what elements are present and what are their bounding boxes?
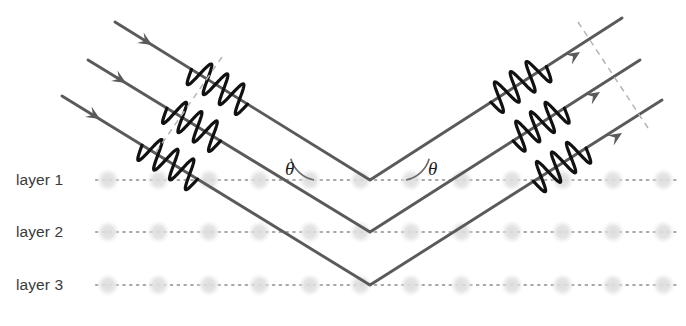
- atom-node: [148, 221, 170, 243]
- wavefronts-group: [156, 22, 648, 152]
- atom-node: [299, 221, 321, 243]
- ray-2-outgoing-arrowhead: [585, 92, 600, 105]
- bragg-diffraction-diagram: [0, 0, 686, 326]
- atom-node: [198, 221, 220, 243]
- atom-node: [400, 169, 422, 191]
- layer-label-2: layer 2: [16, 223, 63, 241]
- rays-group: [62, 18, 662, 285]
- diagram-canvas: layer 1 layer 2 layer 3 θ θ: [0, 0, 686, 326]
- atom-node: [501, 274, 523, 296]
- atom-node: [653, 169, 675, 191]
- atom-node: [501, 169, 523, 191]
- atom-node: [602, 274, 624, 296]
- layer-lines-group: [96, 180, 680, 285]
- atom-node: [249, 169, 271, 191]
- atom-node: [451, 274, 473, 296]
- atom-node: [602, 169, 624, 191]
- atom-node: [602, 221, 624, 243]
- atom-node: [552, 274, 574, 296]
- atom-node: [400, 221, 422, 243]
- atom-node: [400, 274, 422, 296]
- atom-node: [97, 221, 119, 243]
- ray-arrowheads-group: [85, 33, 622, 146]
- atom-node: [653, 221, 675, 243]
- atom-node: [97, 169, 119, 191]
- atom-node: [249, 221, 271, 243]
- atom-node: [653, 274, 675, 296]
- layer-label-1: layer 1: [16, 171, 63, 189]
- atom-node: [148, 169, 170, 191]
- layer-label-3: layer 3: [16, 276, 63, 294]
- atom-node: [97, 274, 119, 296]
- atom-node: [198, 274, 220, 296]
- atom-node: [299, 169, 321, 191]
- atom-node: [501, 221, 523, 243]
- ray-1-path: [115, 18, 622, 180]
- atom-node: [552, 221, 574, 243]
- atom-node: [148, 274, 170, 296]
- theta-label-incident: θ: [285, 158, 294, 180]
- theta-label-reflected: θ: [428, 158, 437, 180]
- ray-2-path: [88, 60, 640, 232]
- outgoing-wavefront: [578, 22, 648, 128]
- atom-node: [249, 274, 271, 296]
- ray-3-outgoing-arrowhead: [607, 133, 622, 146]
- atom-node: [299, 274, 321, 296]
